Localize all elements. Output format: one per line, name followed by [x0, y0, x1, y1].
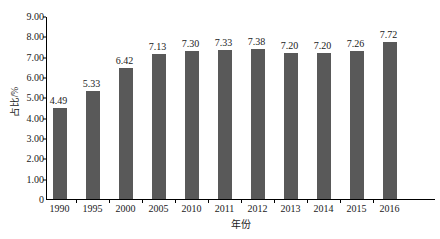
- bar-chart: 占比/% 9.008.007.006.005.004.003.002.001.0…: [0, 0, 440, 239]
- y-tick-label: 4.00: [4, 114, 44, 124]
- y-tick-label: 9.00: [4, 12, 44, 22]
- bar-value-label: 7.20: [275, 41, 305, 51]
- bar-value-label: 6.42: [110, 56, 140, 66]
- bar: [284, 53, 298, 199]
- bar: [152, 54, 166, 199]
- y-tick-mark: [43, 159, 46, 160]
- bar: [350, 51, 364, 199]
- y-tick-mark: [43, 179, 46, 180]
- bar: [185, 51, 199, 199]
- bar: [218, 50, 232, 199]
- y-tick-mark: [43, 78, 46, 79]
- bar-value-label: 7.72: [374, 30, 404, 40]
- bar-value-label: 7.13: [143, 42, 173, 52]
- x-tick-label: 2016: [370, 203, 410, 214]
- y-tick-label: 6.00: [4, 73, 44, 83]
- bar-value-label: 7.38: [242, 37, 272, 47]
- bar: [119, 68, 133, 199]
- y-tick-label: 5.00: [4, 93, 44, 103]
- y-axis-line: [46, 17, 47, 200]
- y-tick-mark: [43, 118, 46, 119]
- bar: [251, 49, 265, 199]
- bar: [383, 42, 397, 199]
- y-tick-mark: [43, 57, 46, 58]
- bar: [53, 108, 67, 199]
- plot-area: 4.495.336.427.137.307.337.387.207.207.26…: [46, 17, 435, 200]
- bar-value-label: 7.20: [308, 41, 338, 51]
- bar-value-label: 7.26: [341, 39, 371, 49]
- bar-value-label: 4.49: [44, 96, 74, 106]
- bar: [86, 91, 100, 199]
- x-axis-title: 年份: [46, 216, 435, 231]
- bar-value-label: 5.33: [77, 79, 107, 89]
- y-tick-mark: [43, 139, 46, 140]
- y-tick-mark: [43, 37, 46, 38]
- y-tick-label: 8.00: [4, 32, 44, 42]
- y-tick-label: 2.00: [4, 154, 44, 164]
- y-tick-label: 7.00: [4, 53, 44, 63]
- y-tick-label: 3.00: [4, 134, 44, 144]
- bar-value-label: 7.30: [176, 39, 206, 49]
- bar: [317, 53, 331, 199]
- y-tick-label: 0: [4, 195, 44, 205]
- y-axis-tick-labels: 9.008.007.006.005.004.003.002.001.000: [0, 0, 44, 239]
- bar-value-label: 7.33: [209, 38, 239, 48]
- y-tick-label: 1.00: [4, 175, 44, 185]
- y-tick-mark: [43, 17, 46, 18]
